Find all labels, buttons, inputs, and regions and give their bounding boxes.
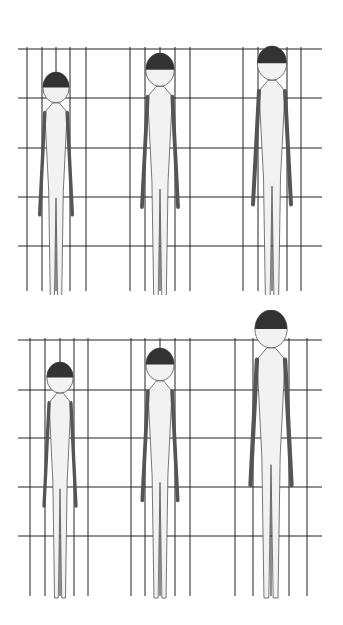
top-grid-diagram (0, 20, 343, 295)
top-panel (0, 20, 343, 295)
figure-arm-right (71, 403, 76, 506)
figure-hair (47, 362, 74, 378)
figure-hair (43, 72, 69, 87)
figure-arm-right (285, 360, 291, 486)
bottom-grid-diagram (0, 310, 343, 600)
figure-hair (146, 53, 174, 70)
figure-hair (255, 310, 287, 329)
figure-hair (146, 348, 174, 364)
figure-arm-left (250, 360, 256, 486)
bottom-panel (0, 310, 343, 600)
